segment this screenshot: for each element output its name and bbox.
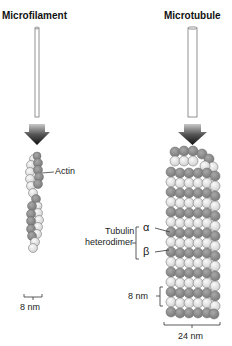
microfilament-rod	[35, 27, 39, 117]
microtubule-height-bracket	[156, 287, 163, 306]
microtubule-width-bracket	[164, 322, 220, 328]
microtubule-rod	[188, 27, 197, 117]
microtubule-width-label: 24 nm	[178, 331, 203, 341]
alpha-label: α	[143, 221, 149, 233]
microtubule-height-label: 8 nm	[128, 291, 148, 301]
actin-leader-line	[42, 172, 54, 173]
arrow-down-icon	[24, 124, 50, 145]
microfilament-width-label: 8 nm	[20, 302, 40, 312]
arrow-down-icon	[178, 124, 207, 145]
tubulin-label: Tubulin	[105, 226, 134, 236]
actin-label: Actin	[55, 166, 75, 176]
heterodimer-label: heterodimer	[85, 237, 133, 247]
microtubule-cylinder	[166, 146, 220, 319]
cytoskeleton-diagram	[0, 0, 232, 346]
beta-label: β	[143, 245, 149, 257]
actin-filament	[26, 152, 44, 253]
microfilament-width-bracket	[24, 294, 42, 300]
tubulin-heterodimer-bracket	[132, 227, 170, 259]
